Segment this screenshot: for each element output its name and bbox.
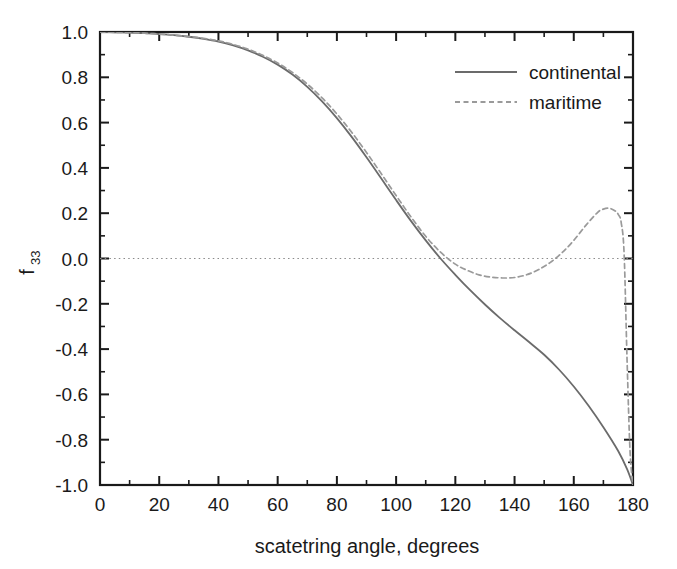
x-axis-title: scatetring angle, degrees [255,535,480,557]
x-tick-label: 20 [149,494,170,515]
y-tick-label: 1.0 [62,22,88,43]
y-tick-label: 0.2 [62,203,88,224]
x-tick-label: 100 [380,494,412,515]
x-tick-label: 180 [617,494,649,515]
x-tick-label: 60 [267,494,288,515]
y-tick-label: -0.6 [55,384,88,405]
legend-label-maritime: maritime [529,92,602,113]
x-tick-label: 160 [558,494,590,515]
y-axis-title-subscript: 33 [28,251,43,265]
y-tick-label: 0.4 [62,158,89,179]
y-tick-label: -0.2 [55,294,88,315]
y-tick-label: -0.4 [55,339,88,360]
x-tick-label: 0 [95,494,106,515]
x-tick-label: 140 [499,494,531,515]
x-tick-label: 120 [439,494,471,515]
x-tick-label: 40 [208,494,229,515]
chart-background [0,0,677,569]
legend-label-continental: continental [529,62,621,83]
x-tick-label: 80 [326,494,347,515]
chart-page: 020406080100120140160180 -1.0-0.8-0.6-0.… [0,0,677,569]
scattering-angle-chart: 020406080100120140160180 -1.0-0.8-0.6-0.… [0,0,677,569]
y-tick-label: 0.0 [62,249,88,270]
y-tick-label: 0.8 [62,67,88,88]
y-tick-label: 0.6 [62,113,88,134]
y-tick-label: -1.0 [55,475,88,496]
y-axis-title-base: f [16,269,38,275]
y-tick-label: -0.8 [55,430,88,451]
